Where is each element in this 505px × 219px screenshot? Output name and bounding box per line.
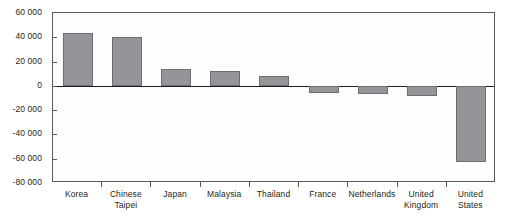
x-axis-tick-mark	[150, 182, 151, 187]
bar	[161, 69, 191, 86]
x-axis-category-label: France	[309, 189, 336, 200]
x-axis-category-label-line: Netherlands	[348, 189, 395, 200]
bar-slot	[151, 13, 200, 181]
bar-slot	[398, 13, 447, 181]
plot-area	[52, 12, 495, 182]
x-axis-category-label: ChineseTaipei	[110, 189, 142, 210]
bar	[210, 71, 240, 86]
x-axis-category-label-line: States	[458, 200, 483, 211]
bar-slot	[299, 13, 348, 181]
x-axis-category-label-line: Chinese	[110, 189, 142, 200]
y-axis-tick-label: 0	[37, 81, 42, 90]
x-axis-category-label: UnitedKingdom	[404, 189, 438, 210]
bar-slot	[348, 13, 397, 181]
bar	[112, 37, 142, 86]
x-axis-tick-mark	[298, 182, 299, 187]
y-axis-tick-mark	[53, 62, 57, 63]
bar-slot	[201, 13, 250, 181]
x-axis-category-label-line: Japan	[163, 189, 187, 200]
x-axis-category-label-line: Taipei	[110, 200, 142, 211]
x-axis-category-label-line: United	[404, 189, 438, 200]
y-axis-tick-mark	[53, 159, 57, 160]
bar	[456, 86, 486, 163]
y-axis-tick-label: -40 000	[12, 129, 42, 138]
bar	[407, 86, 437, 96]
y-axis-tick-mark	[53, 86, 57, 87]
x-axis-category-label-line: United	[458, 189, 483, 200]
bar	[259, 76, 289, 86]
bar	[358, 86, 388, 94]
x-axis-category-label: UnitedStates	[458, 189, 483, 210]
x-axis-category-label: Japan	[163, 189, 187, 200]
x-axis-tick-mark	[249, 182, 250, 187]
y-axis-tick-mark	[53, 134, 57, 135]
x-axis-category-label: Thailand	[257, 189, 290, 200]
x-axis-tick-mark	[347, 182, 348, 187]
y-axis-tick-label: -60 000	[12, 153, 42, 162]
x-axis-tick-mark	[397, 182, 398, 187]
bar	[63, 33, 93, 86]
y-axis-tick-mark	[53, 110, 57, 111]
x-axis-labels: KoreaChineseTaipeiJapanMalaysiaThailandF…	[52, 189, 495, 219]
bar-slot	[53, 13, 102, 181]
x-axis-category-label-line: Kingdom	[404, 200, 438, 211]
x-axis-category-label: Netherlands	[348, 189, 395, 200]
x-axis-category-label: Malaysia	[207, 189, 241, 200]
x-axis-category-label-line: Korea	[65, 189, 88, 200]
y-axis-tick-mark	[53, 37, 57, 38]
y-axis-tick-label: -80 000	[12, 178, 42, 187]
bar-slot	[102, 13, 151, 181]
x-axis-category-label-line: France	[309, 189, 336, 200]
x-axis-tick-mark	[101, 182, 102, 187]
bars-layer	[53, 13, 494, 181]
y-axis-tick-label: -20 000	[12, 105, 42, 114]
bar	[309, 86, 339, 93]
y-axis-tick-label: 60 000	[15, 8, 42, 17]
x-axis-tick-mark	[200, 182, 201, 187]
bar-chart: 60 00040 00020 0000-20 000-40 000-60 000…	[0, 0, 505, 219]
x-axis-category-label-line: Thailand	[257, 189, 290, 200]
x-axis-tick-mark	[446, 182, 447, 187]
x-axis-category-label: Korea	[65, 189, 88, 200]
bar-slot	[250, 13, 299, 181]
x-axis-ticks	[52, 182, 495, 187]
y-axis: 60 00040 00020 0000-20 000-40 000-60 000…	[0, 12, 48, 182]
y-axis-tick-label: 40 000	[15, 32, 42, 41]
bar-slot	[447, 13, 496, 181]
x-axis-category-label-line: Malaysia	[207, 189, 241, 200]
y-axis-tick-label: 20 000	[15, 56, 42, 65]
